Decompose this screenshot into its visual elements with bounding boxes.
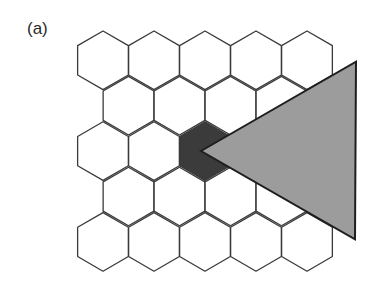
panel-label: (a) xyxy=(27,19,48,39)
hexagon-grid-diagram xyxy=(0,0,374,289)
